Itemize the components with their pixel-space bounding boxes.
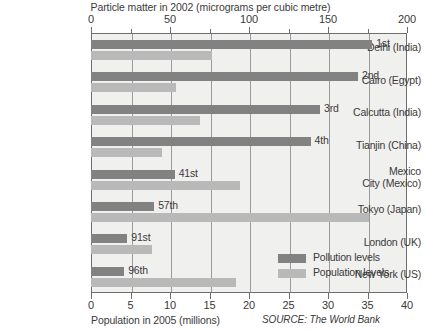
top-axis-minor-tick — [368, 29, 369, 33]
top-axis-tick — [170, 27, 171, 33]
bottom-axis-ticklabel: 10 — [150, 299, 190, 311]
category-label: Tianjin (China) — [335, 140, 421, 152]
category-label-line: Tianjin (China) — [335, 140, 421, 152]
top-axis-minor-tick — [289, 29, 290, 33]
bar-pollution — [91, 72, 358, 81]
bar-pollution — [91, 202, 154, 211]
bottom-axis-ticklabel: 15 — [190, 299, 230, 311]
bar-population — [91, 181, 240, 190]
rank-label: 96th — [128, 264, 148, 276]
rank-label: 57th — [158, 199, 178, 211]
rank-label: 2nd — [362, 69, 379, 81]
top-axis-tick — [407, 27, 408, 33]
bar-population — [91, 83, 176, 92]
legend-swatch-population — [278, 269, 306, 278]
bottom-axis-ticklabel: 20 — [229, 299, 269, 311]
bar-pollution — [91, 40, 372, 49]
top-axis-minor-tick — [131, 29, 132, 33]
bottom-axis-ticklabel: 25 — [269, 299, 309, 311]
bottom-axis-ticklabel: 30 — [308, 299, 348, 311]
bar-pollution — [91, 267, 124, 276]
chart-source-note: SOURCE: The World Bank — [262, 314, 380, 325]
bottom-axis-ticklabel: 5 — [111, 299, 151, 311]
legend-label-population: Population levels — [313, 266, 389, 278]
rank-label: 41st — [179, 167, 198, 179]
chart-bottom-axis-title: Population in 2005 (millions) — [91, 314, 220, 326]
bottom-axis-ticklabel: 35 — [348, 299, 388, 311]
top-axis-minor-tick — [210, 29, 211, 33]
top-axis-ticklabel: 100 — [229, 13, 269, 25]
category-label-line: Mexico — [335, 166, 421, 178]
bottom-axis-ticklabel: 40 — [387, 299, 426, 311]
bar-pollution — [91, 170, 175, 179]
top-axis-tick — [91, 27, 92, 33]
rank-label: 91st — [131, 231, 150, 243]
rank-label: 1st — [376, 37, 389, 49]
rank-label: 4th — [315, 134, 329, 146]
legend-swatch-pollution — [278, 254, 306, 263]
bar-population — [91, 245, 152, 254]
category-label: London (UK) — [335, 237, 421, 249]
category-label: MexicoCity (Mexico) — [335, 166, 421, 189]
bar-population — [91, 148, 162, 157]
bar-population — [91, 51, 212, 60]
bar-pollution — [91, 105, 320, 114]
bar-pollution — [91, 234, 127, 243]
top-axis-tick — [249, 27, 250, 33]
chart-top-axis-title: Particle matter in 2002 (micrograms per … — [0, 1, 421, 13]
legend-label-pollution: Pollution levels — [313, 251, 380, 263]
top-axis-ticklabel: 0 — [71, 13, 111, 25]
bottom-axis-ticklabel: 0 — [71, 299, 111, 311]
top-axis-ticklabel: 50 — [150, 13, 190, 25]
top-axis-tick — [328, 27, 329, 33]
rank-label: 3rd — [324, 102, 339, 114]
bar-population — [91, 213, 369, 222]
top-axis-ticklabel: 150 — [308, 13, 348, 25]
category-label-line: City (Mexico) — [335, 178, 421, 190]
top-axis-ticklabel: 200 — [387, 13, 426, 25]
category-label: Calcutta (India) — [335, 107, 421, 119]
bar-population — [91, 116, 200, 125]
top-axis-line — [91, 33, 407, 34]
bar-population — [91, 278, 236, 287]
category-label-line: Calcutta (India) — [335, 107, 421, 119]
bar-pollution — [91, 137, 311, 146]
category-label-line: London (UK) — [335, 237, 421, 249]
